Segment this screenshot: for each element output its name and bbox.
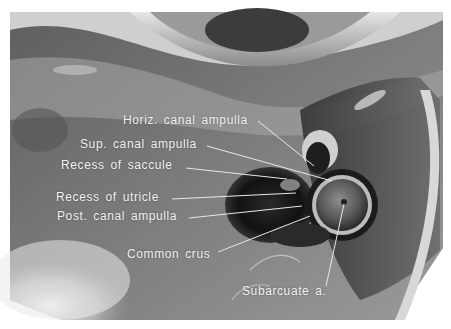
label-subarcuate-a: Subarcuate a. [242,284,327,298]
label-recess-of-saccule: Recess of saccule [61,158,173,172]
label-post-canal-ampulla: Post. canal ampulla [57,209,177,223]
label-common-crus: Common crus [127,247,210,261]
top-opening [205,8,309,52]
label-recess-of-utricle: Recess of utricle [56,190,159,204]
label-horiz-canal-ampulla: Horiz. canal ampulla [123,113,248,127]
label-sup-canal-ampulla: Sup. canal ampulla [80,137,197,151]
